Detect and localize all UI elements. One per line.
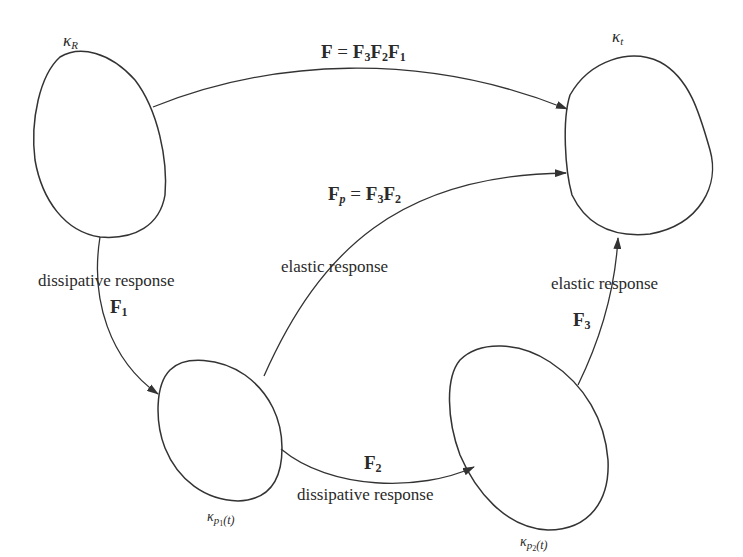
equals-sign: = [333,41,353,62]
f3-symbol: F [353,41,365,62]
label-f3-caption: elastic response [551,275,658,292]
f2-subscript: 2 [395,192,401,206]
fp-symbol: F [328,183,340,204]
kappa-symbol: κ [520,534,527,549]
configuration-kappa-p1-shape [158,360,282,501]
f3-subscript: 3 [585,318,591,332]
kappa-symbol: κ [63,31,71,50]
f2-symbol: F [370,41,382,62]
arrow-f-total [153,68,567,109]
kappa-argument: (t) [223,513,234,527]
configuration-kappa-t-shape [565,56,712,234]
label-f2-caption: dissipative response [297,486,433,503]
kappa-subscript: R [71,39,78,51]
arrow-f1 [97,237,158,394]
label-kappa-t: κt [612,28,623,47]
label-kappa-r: κR [63,32,78,51]
f1-symbol: F [110,296,122,317]
f3-symbol: F [573,309,585,330]
label-fp-caption: elastic response [281,258,388,275]
label-f-equation: F = F3F2F1 [321,42,406,63]
label-kappa-p1: κp1(t) [207,510,235,528]
kappa-symbol: κ [612,27,620,46]
f1-subscript: 1 [122,305,128,319]
f3-symbol: F [366,183,378,204]
f1-symbol: F [388,41,400,62]
label-f1-caption: dissipative response [38,272,174,289]
label-f1: F1 [110,297,128,318]
f2-symbol: F [383,183,395,204]
label-kappa-p2: κp2(t) [520,535,548,553]
f-symbol: F [321,41,333,62]
f1-subscript: 1 [400,50,406,64]
f2-subscript: 2 [376,461,382,475]
configuration-kappa-r-shape [34,51,166,237]
equals-sign: = [346,183,366,204]
label-f2: F2 [364,453,382,474]
configuration-kappa-p2-shape [449,346,608,530]
label-f3: F3 [573,310,591,331]
label-fp-equation: Fp = F3F2 [328,184,401,205]
kappa-argument: (t) [536,538,547,552]
kappa-subscript: t [620,35,623,47]
kappa-symbol: κ [207,509,214,524]
f2-symbol: F [364,452,376,473]
